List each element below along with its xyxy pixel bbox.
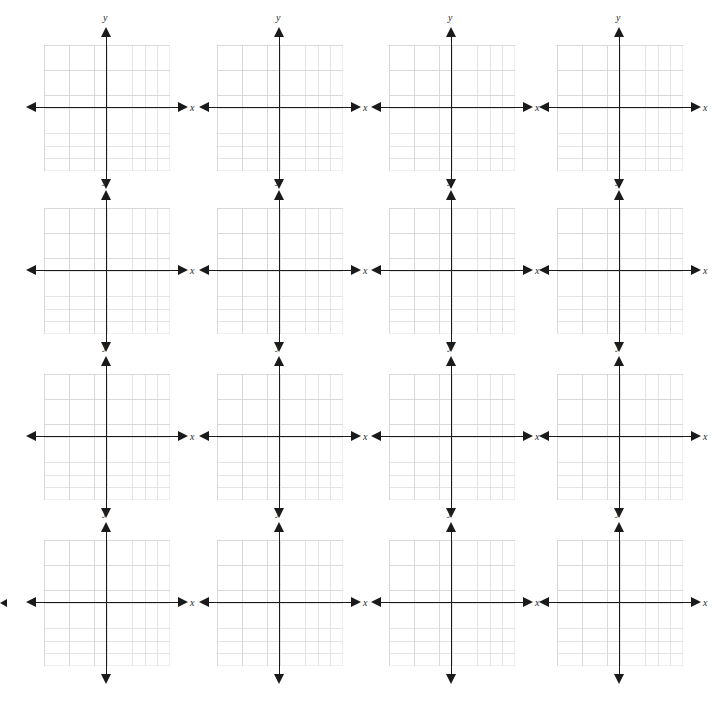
x-axis-label: x [703, 598, 707, 608]
coordinate-plane-15[interactable]: xy [357, 508, 547, 698]
coordinate-plane-7[interactable]: xy [357, 176, 547, 366]
y-axis-arrow-up-icon [614, 522, 624, 532]
y-axis-label: y [103, 508, 107, 518]
y-axis-arrow-up-icon [614, 190, 624, 200]
y-axis-arrow-up-icon [274, 27, 284, 37]
y-axis-label: y [276, 176, 280, 186]
y-axis-arrow-up-icon [274, 190, 284, 200]
coordinate-plane-9[interactable]: xy [12, 342, 202, 532]
x-axis-label: x [703, 103, 707, 113]
y-axis-label: y [276, 342, 280, 352]
y-axis-line [106, 530, 107, 676]
x-axis-arrow-right-icon [691, 102, 701, 112]
y-axis-label: y [103, 342, 107, 352]
x-axis-arrow-left-icon [371, 431, 381, 441]
x-axis-arrow-left-icon [371, 102, 381, 112]
coordinate-plane-13[interactable]: xy [12, 508, 202, 698]
y-axis-line [279, 198, 280, 344]
x-axis-arrow-left-icon [539, 431, 549, 441]
x-axis-arrow-left-icon [199, 265, 209, 275]
x-axis-arrow-left-icon [371, 265, 381, 275]
coordinate-plane-14[interactable]: xy [185, 508, 375, 698]
y-axis-label: y [276, 508, 280, 518]
y-axis-arrow-up-icon [274, 356, 284, 366]
y-axis-line [619, 530, 620, 676]
y-axis-line [106, 198, 107, 344]
y-axis-line [619, 198, 620, 344]
y-axis-line [451, 198, 452, 344]
coordinate-plane-2[interactable]: xy [185, 13, 375, 203]
y-axis-label: y [448, 508, 452, 518]
y-axis-arrow-up-icon [101, 356, 111, 366]
y-axis-arrow-down-icon [274, 674, 284, 684]
y-axis-line [451, 35, 452, 181]
y-axis-arrow-up-icon [446, 27, 456, 37]
worksheet-canvas: xyxyxyxyxyxyxyxyxyxyxyxyxyxyxyxy [0, 0, 722, 701]
y-axis-line [279, 530, 280, 676]
coordinate-plane-1[interactable]: xy [12, 13, 202, 203]
coordinate-plane-8[interactable]: xy [525, 176, 715, 366]
coordinate-plane-4[interactable]: xy [525, 13, 715, 203]
coordinate-plane-12[interactable]: xy [525, 342, 715, 532]
y-axis-arrow-up-icon [446, 522, 456, 532]
x-axis-arrow-left-icon [371, 597, 381, 607]
y-axis-label: y [616, 342, 620, 352]
x-axis-arrow-left-icon [539, 102, 549, 112]
x-axis-label: x [703, 266, 707, 276]
x-axis-arrow-left-icon [26, 597, 36, 607]
x-axis-arrow-left-icon [199, 597, 209, 607]
y-axis-arrow-up-icon [614, 27, 624, 37]
x-axis-arrow-left-icon [199, 102, 209, 112]
y-axis-arrow-down-icon [614, 674, 624, 684]
coordinate-plane-5[interactable]: xy [12, 176, 202, 366]
y-axis-label: y [616, 176, 620, 186]
x-axis-arrow-left-icon [26, 102, 36, 112]
coordinate-plane-6[interactable]: xy [185, 176, 375, 366]
x-axis-label: x [703, 432, 707, 442]
x-axis-arrow-right-icon [691, 431, 701, 441]
cut-off-arrow-icon-1 [0, 599, 7, 607]
x-axis-arrow-right-icon [691, 597, 701, 607]
coordinate-plane-10[interactable]: xy [185, 342, 375, 532]
y-axis-arrow-up-icon [446, 356, 456, 366]
y-axis-line [619, 364, 620, 510]
y-axis-line [451, 364, 452, 510]
y-axis-label: y [448, 13, 452, 23]
y-axis-label: y [448, 176, 452, 186]
y-axis-arrow-up-icon [101, 522, 111, 532]
y-axis-label: y [276, 13, 280, 23]
y-axis-arrow-up-icon [101, 190, 111, 200]
x-axis-arrow-left-icon [26, 265, 36, 275]
y-axis-line [106, 35, 107, 181]
y-axis-label: y [103, 13, 107, 23]
y-axis-arrow-up-icon [614, 356, 624, 366]
y-axis-arrow-up-icon [101, 27, 111, 37]
y-axis-line [451, 530, 452, 676]
coordinate-plane-11[interactable]: xy [357, 342, 547, 532]
y-axis-arrow-up-icon [274, 522, 284, 532]
y-axis-arrow-down-icon [101, 674, 111, 684]
y-axis-line [106, 364, 107, 510]
y-axis-line [619, 35, 620, 181]
y-axis-arrow-down-icon [446, 674, 456, 684]
y-axis-label: y [103, 176, 107, 186]
y-axis-label: y [616, 508, 620, 518]
y-axis-line [279, 35, 280, 181]
y-axis-line [279, 364, 280, 510]
x-axis-arrow-right-icon [691, 265, 701, 275]
y-axis-label: y [448, 342, 452, 352]
x-axis-arrow-left-icon [539, 265, 549, 275]
coordinate-plane-16[interactable]: xy [525, 508, 715, 698]
y-axis-label: y [616, 13, 620, 23]
y-axis-arrow-up-icon [446, 190, 456, 200]
x-axis-arrow-left-icon [539, 597, 549, 607]
x-axis-arrow-left-icon [26, 431, 36, 441]
x-axis-arrow-left-icon [199, 431, 209, 441]
coordinate-plane-3[interactable]: xy [357, 13, 547, 203]
